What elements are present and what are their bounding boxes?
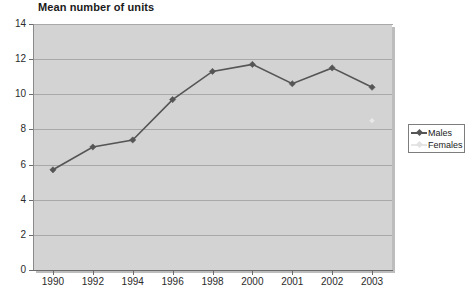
chart-container: Mean number of units 02468101214 1990199… — [0, 0, 474, 295]
x-tick — [252, 271, 253, 275]
data-point-marker — [90, 144, 96, 150]
data-point-marker — [370, 118, 375, 123]
legend-line-icon-females — [411, 140, 427, 150]
x-tick — [332, 271, 333, 275]
data-point-marker — [369, 84, 375, 90]
x-tick — [133, 271, 134, 275]
x-tick — [93, 271, 94, 275]
data-series-layer — [33, 24, 392, 270]
y-axis-label: 8 — [0, 123, 26, 134]
chart-title: Mean number of units — [38, 1, 154, 13]
y-axis-label: 14 — [0, 18, 26, 29]
x-tick — [173, 271, 174, 275]
x-axis-label: 2003 — [361, 276, 383, 287]
data-point-marker — [289, 81, 295, 87]
x-axis-label: 1990 — [42, 276, 64, 287]
x-tick — [292, 271, 293, 275]
x-axis-label: 1992 — [82, 276, 104, 287]
legend-label-males: Males — [428, 128, 452, 138]
y-tick — [29, 270, 33, 271]
x-axis-label: 2001 — [281, 276, 303, 287]
legend-item-females: Females — [411, 139, 464, 151]
data-point-marker — [329, 65, 335, 71]
legend-item-males: Males — [411, 127, 464, 139]
y-axis-label: 2 — [0, 229, 26, 240]
x-tick — [53, 271, 54, 275]
series-line-males — [53, 64, 372, 169]
data-point-marker — [249, 61, 255, 67]
x-tick — [372, 271, 373, 275]
x-axis-label: 2000 — [241, 276, 263, 287]
y-axis-label: 12 — [0, 53, 26, 64]
chart-legend: Males Females — [408, 124, 465, 153]
x-axis-label: 1994 — [122, 276, 144, 287]
y-axis-label: 4 — [0, 194, 26, 205]
plot-shadow-right — [392, 27, 395, 273]
y-axis-label: 0 — [0, 264, 26, 275]
y-axis-label: 6 — [0, 159, 26, 170]
y-axis-label: 10 — [0, 88, 26, 99]
x-tick — [213, 271, 214, 275]
x-axis-label: 1998 — [201, 276, 223, 287]
x-axis-label: 2002 — [321, 276, 343, 287]
legend-label-females: Females — [428, 140, 463, 150]
x-axis-label: 1996 — [161, 276, 183, 287]
legend-line-icon-males — [411, 128, 427, 138]
